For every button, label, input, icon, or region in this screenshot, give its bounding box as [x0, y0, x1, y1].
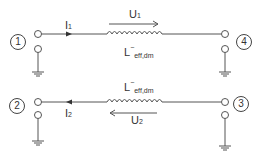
l-top-subscript: eff,dm	[134, 52, 153, 59]
l-top-superscript: −	[130, 44, 134, 51]
inductor-label-bottom: L−eff,dm	[124, 79, 154, 94]
port-4: 4	[236, 34, 252, 50]
voltage-label-u2: U2	[131, 114, 143, 126]
port-2: 2	[9, 98, 25, 114]
current-arrow-i2	[66, 100, 72, 105]
i1-subscript: 1	[68, 23, 72, 30]
terminal-2a	[35, 99, 42, 106]
current-label-i2: I2	[65, 107, 72, 119]
i2-subscript: 2	[68, 111, 72, 118]
u2-subscript: 2	[139, 118, 143, 125]
voltage-label-u1: U1	[129, 8, 141, 20]
inductor-label-top: L−eff,dm	[124, 44, 154, 59]
u1-subscript: 1	[137, 12, 141, 19]
current-label-i1: I1	[65, 19, 72, 31]
terminal-3b	[222, 112, 229, 119]
u1-symbol: U	[129, 8, 137, 20]
inductor-top	[107, 32, 162, 35]
port-3: 3	[233, 96, 249, 112]
terminal-1b	[35, 46, 42, 53]
terminal-2b	[35, 112, 42, 119]
terminal-4b	[222, 46, 229, 53]
current-arrow-i1	[66, 32, 72, 37]
terminal-3a	[222, 99, 229, 106]
terminal-1a	[35, 31, 42, 38]
l-bottom-superscript: −	[130, 79, 134, 86]
l-bottom-subscript: eff,dm	[134, 87, 153, 94]
u2-symbol: U	[131, 114, 139, 126]
port-1: 1	[10, 34, 26, 50]
inductor-bottom	[107, 100, 162, 103]
terminal-4a	[222, 31, 229, 38]
